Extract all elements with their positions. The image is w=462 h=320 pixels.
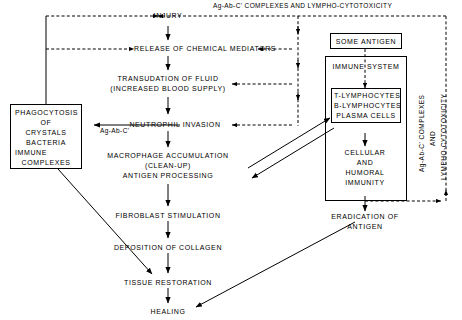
node-injury[interactable]: INJURY bbox=[140, 11, 196, 21]
ag-ab-c-text: Ag-Ab-C' bbox=[100, 127, 129, 134]
node-phagocytosis-line2: OF bbox=[15, 118, 77, 128]
node-tissue-restoration[interactable]: TISSUE RESTORATION bbox=[116, 278, 220, 288]
node-deposition-of-collagen[interactable]: DEPOSITION OF COLLAGEN bbox=[108, 243, 228, 253]
node-phagocytosis-line4: BACTERIA bbox=[15, 138, 77, 148]
node-phagocytosis-line1: PHAGOCYTOSIS bbox=[15, 108, 77, 118]
node-fibroblast-stimulation[interactable]: FIBROBLAST STIMULATION bbox=[110, 211, 226, 221]
node-phagocytosis-line5: IMMUNE bbox=[15, 148, 77, 158]
node-immunity-line2: AND bbox=[332, 158, 398, 168]
node-eradication-of-antigen[interactable]: ERADICATION OF ANTIGEN bbox=[320, 212, 410, 232]
node-macrophage-accumulation[interactable]: MACROPHAGE ACCUMULATION (CLEAN-UP) ANTIG… bbox=[98, 151, 238, 181]
inflammation-healing-flowchart: INJURY RELEASE OF CHEMICAL MEDIATORS TRA… bbox=[0, 0, 462, 320]
node-some-antigen[interactable]: SOME ANTIGEN bbox=[330, 33, 402, 49]
node-collagen-label: DEPOSITION OF COLLAGEN bbox=[108, 243, 228, 253]
node-transudation-line1: TRANSUDATION OF FLUID bbox=[104, 74, 232, 84]
node-transudation-of-fluid[interactable]: TRANSUDATION OF FLUID (INCREASED BLOOD S… bbox=[104, 74, 232, 94]
node-fibroblast-label: FIBROBLAST STIMULATION bbox=[110, 211, 226, 221]
side-complexes-text1: Ag-Ab-C' COMPLEXES bbox=[418, 95, 425, 172]
node-lymphocytes-line2: B-LYMPHOCYTES bbox=[334, 101, 398, 111]
node-release-chemical-mediators[interactable]: RELEASE OF CHEMICAL MEDIATORS bbox=[134, 44, 264, 54]
node-neutrophil-label: NEUTROPHIL INVASION bbox=[118, 120, 232, 130]
node-lymphocytes-line3: PLASMA CELLS bbox=[334, 111, 398, 121]
node-cellular-humoral-immunity[interactable]: CELLULAR AND HUMORAL IMMUNITY bbox=[332, 148, 398, 188]
node-phagocytosis-box[interactable]: PHAGOCYTOSIS OF CRYSTALS BACTERIA IMMUNE… bbox=[10, 104, 82, 169]
node-eradication-line1: ERADICATION OF bbox=[320, 212, 410, 222]
node-release-label: RELEASE OF CHEMICAL MEDIATORS bbox=[134, 44, 264, 54]
node-healing-label: HEALING bbox=[142, 307, 194, 317]
node-lymphocytes-line1: T-LYMPHOCYTES bbox=[334, 91, 398, 101]
side-complexes-text2: AND bbox=[429, 131, 436, 146]
top-complexes-label: Ag-Ab-C' COMPLEXES AND LYMPHO-CYTOTOXICI… bbox=[213, 2, 392, 9]
node-tissue-label: TISSUE RESTORATION bbox=[116, 278, 220, 288]
node-transudation-line2: (INCREASED BLOOD SUPPLY) bbox=[104, 84, 232, 94]
node-phagocytosis-line6: COMPLEXES bbox=[15, 158, 77, 168]
node-immune-system-label: IMMUNE SYSTEM bbox=[329, 62, 403, 72]
node-immunity-line3: HUMORAL bbox=[332, 168, 398, 178]
node-immunity-line4: IMMUNITY bbox=[332, 178, 398, 188]
node-immunity-line1: CELLULAR bbox=[332, 148, 398, 158]
node-macrophage-line1: MACROPHAGE ACCUMULATION bbox=[98, 151, 238, 161]
node-neutrophil-invasion[interactable]: NEUTROPHIL INVASION bbox=[118, 120, 232, 130]
side-complexes-text3: LYMPHO-CYTOTOXICITY bbox=[440, 94, 447, 180]
node-eradication-line2: ANTIGEN bbox=[320, 222, 410, 232]
node-macrophage-line2: (CLEAN-UP) bbox=[98, 161, 238, 171]
node-lymphocytes-box[interactable]: T-LYMPHOCYTES B-LYMPHOCYTES PLASMA CELLS bbox=[331, 88, 401, 123]
side-complexes-label-line1: Ag-Ab-C' COMPLEXES bbox=[418, 95, 425, 172]
node-some-antigen-label: SOME ANTIGEN bbox=[335, 36, 397, 48]
node-macrophage-line3: ANTIGEN PROCESSING bbox=[98, 171, 238, 181]
immune-system-text: IMMUNE SYSTEM bbox=[329, 62, 403, 72]
node-phagocytosis-line3: CRYSTALS bbox=[15, 128, 77, 138]
top-complexes-text: Ag-Ab-C' COMPLEXES AND LYMPHO-CYTOTOXICI… bbox=[213, 2, 392, 9]
node-injury-label: INJURY bbox=[140, 11, 196, 21]
side-complexes-label-line2: AND bbox=[429, 131, 436, 146]
side-complexes-label-line3: LYMPHO-CYTOTOXICITY bbox=[440, 94, 447, 180]
node-healing[interactable]: HEALING bbox=[142, 307, 194, 317]
ag-ab-c-edge-label: Ag-Ab-C' bbox=[100, 127, 129, 134]
